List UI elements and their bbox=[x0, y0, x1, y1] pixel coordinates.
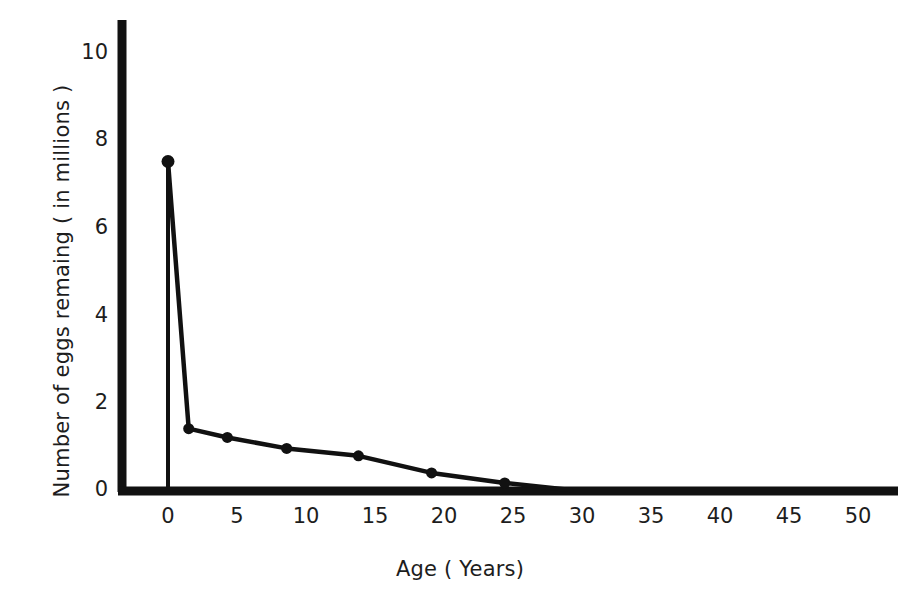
x-tick-label: 10 bbox=[283, 504, 329, 528]
x-tick-label: 50 bbox=[835, 504, 881, 528]
data-point bbox=[426, 467, 437, 478]
y-axis-title: Number of eggs remaing ( in millions ) bbox=[50, 61, 74, 521]
x-tick-label: 5 bbox=[214, 504, 260, 528]
data-point bbox=[353, 450, 364, 461]
data-point bbox=[162, 155, 175, 168]
x-tick-label: 45 bbox=[766, 504, 812, 528]
x-tick-label: 20 bbox=[421, 504, 467, 528]
data-point-markers bbox=[162, 155, 511, 488]
data-point bbox=[222, 432, 233, 443]
chart-figure: 10 8 6 4 2 0 0 5 10 15 20 25 30 35 40 45… bbox=[0, 0, 910, 610]
data-point bbox=[499, 477, 510, 488]
x-tick-label: 40 bbox=[697, 504, 743, 528]
x-tick-label: 30 bbox=[559, 504, 605, 528]
data-point bbox=[183, 423, 194, 434]
x-tick-label: 15 bbox=[352, 504, 398, 528]
x-tick-label: 0 bbox=[145, 504, 191, 528]
x-tick-label: 35 bbox=[628, 504, 674, 528]
data-point bbox=[281, 443, 292, 454]
x-axis-title: Age ( Years) bbox=[330, 557, 590, 581]
x-tick-label: 25 bbox=[490, 504, 536, 528]
